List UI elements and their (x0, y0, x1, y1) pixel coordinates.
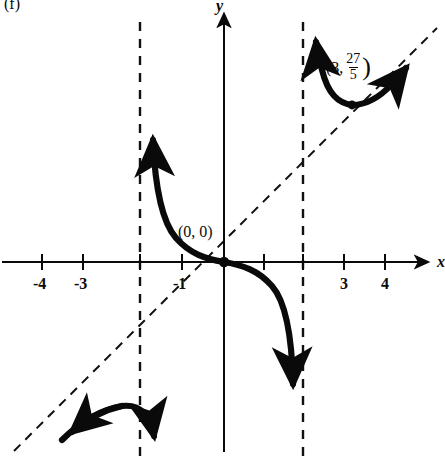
x-axis-label: x (437, 254, 445, 270)
minimum-point-label: (3, 27 5 ) (326, 53, 371, 83)
origin-point-marker (219, 257, 229, 267)
fraction-denominator: 5 (349, 67, 358, 83)
fraction-numerator: 27 (345, 52, 361, 67)
x-tick-label--4: -4 (33, 276, 46, 292)
origin-point-label: (0, 0) (178, 224, 213, 240)
x-tick-label--3: -3 (74, 276, 87, 292)
y-axis-label: y (216, 0, 223, 14)
fraction-27-over-5: 27 5 (345, 52, 361, 82)
minimum-point-label-lead: (3, (326, 60, 344, 76)
x-tick-label-4: 4 (381, 276, 389, 292)
minimum-point-marker (348, 101, 357, 110)
minimum-point-label-close: ) (362, 54, 371, 80)
x-tick-label-3: 3 (340, 276, 348, 292)
slant-asymptote (14, 28, 437, 451)
panel-tag: (f) (4, 0, 20, 12)
x-tick-label--1: -1 (173, 276, 186, 292)
